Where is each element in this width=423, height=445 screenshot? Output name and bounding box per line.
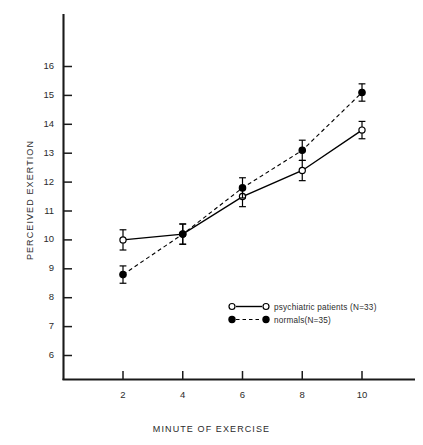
- data-series-layer: [120, 84, 366, 283]
- data-point-open-circle: [120, 237, 126, 243]
- data-point-filled-circle: [120, 271, 126, 277]
- legend-marker-filled-circle: [229, 316, 235, 322]
- data-point-filled-circle: [299, 147, 305, 153]
- x-axis-ticks: [123, 371, 362, 380]
- y-tick-label: 13: [32, 147, 54, 158]
- legend-markers: [229, 304, 269, 323]
- data-point-open-circle: [359, 127, 365, 133]
- legend-label-normals: normals(N=35): [274, 316, 331, 325]
- x-tick-label: 4: [171, 389, 195, 400]
- perceived-exertion-line-chart: [0, 0, 423, 445]
- chart-figure: 678910111213141516 246810 PERCEIVED EXER…: [0, 0, 423, 445]
- y-tick-label: 11: [32, 205, 54, 216]
- y-tick-label: 15: [32, 89, 54, 100]
- data-point-open-circle: [299, 167, 305, 173]
- y-tick-label: 10: [32, 233, 54, 244]
- x-tick-label: 8: [290, 389, 314, 400]
- x-axis-title: MINUTE OF EXERCISE: [0, 424, 423, 434]
- axis-lines: [63, 14, 416, 380]
- data-point-filled-circle: [180, 231, 186, 237]
- y-axis-title: PERCEIVED EXERTION: [25, 100, 35, 300]
- legend-marker-open-circle: [229, 304, 235, 310]
- y-tick-label: 12: [32, 176, 54, 187]
- y-tick-label: 14: [32, 118, 54, 129]
- y-tick-label: 8: [32, 291, 54, 302]
- y-tick-label: 7: [32, 320, 54, 331]
- x-tick-label: 2: [111, 389, 135, 400]
- y-tick-label: 9: [32, 262, 54, 273]
- legend-marker-filled-circle: [263, 316, 269, 322]
- legend-label-psychiatric-patients: psychiatric patients (N=33): [274, 303, 377, 312]
- y-axis-ticks: [64, 67, 73, 356]
- legend-marker-open-circle: [263, 304, 269, 310]
- data-point-filled-circle: [359, 89, 365, 95]
- x-tick-label: 10: [350, 389, 374, 400]
- y-tick-label: 6: [32, 349, 54, 360]
- x-tick-label: 6: [231, 389, 255, 400]
- y-tick-label: 16: [32, 60, 54, 71]
- data-point-filled-circle: [239, 185, 245, 191]
